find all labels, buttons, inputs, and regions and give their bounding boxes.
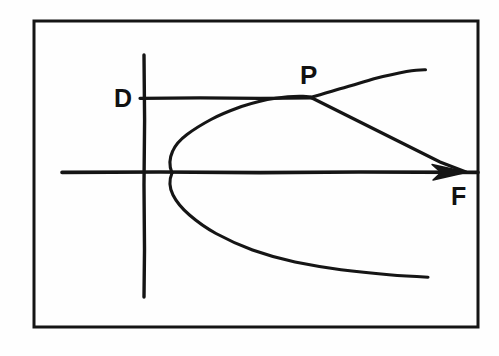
- segment-directrix-to-point: [140, 98, 312, 99]
- parabola-upper-branch: [170, 70, 426, 173]
- label-focus-F: F: [451, 184, 466, 209]
- label-point-P: P: [300, 62, 317, 88]
- segment-point-to-focus: [311, 98, 466, 173]
- diagram-canvas: D P F: [0, 0, 499, 356]
- directrix-line: [144, 55, 145, 297]
- parabola-figure: [0, 0, 499, 356]
- parabola-lower-branch: [170, 173, 428, 277]
- axis-line: [62, 172, 478, 173]
- label-directrix-D: D: [114, 86, 132, 111]
